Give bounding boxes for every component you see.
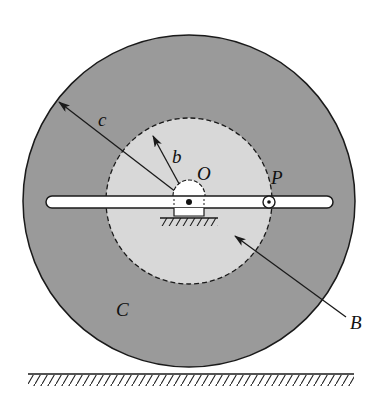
ground [28, 374, 354, 386]
label-b: b [172, 146, 182, 167]
diagram-canvas: c b O P C B [0, 0, 383, 403]
label-o: O [197, 163, 211, 184]
pivot-o [186, 199, 192, 205]
label-disk-c: C [116, 299, 129, 320]
pin-p [263, 196, 275, 208]
label-c: c [98, 109, 107, 130]
label-disk-b: B [350, 312, 362, 333]
label-p: P [270, 167, 283, 188]
